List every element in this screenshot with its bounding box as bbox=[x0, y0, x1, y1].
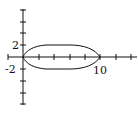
x-tick-label-10: 10 bbox=[93, 64, 107, 77]
y-tick-label-neg2: -2 bbox=[5, 63, 16, 76]
chart-canvas: 2 -2 10 bbox=[0, 0, 139, 120]
y-tick-label-2: 2 bbox=[12, 39, 19, 52]
